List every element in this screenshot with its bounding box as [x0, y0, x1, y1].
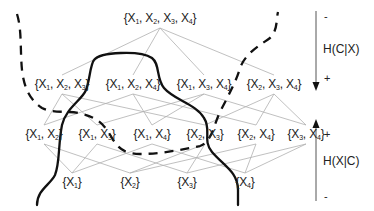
lattice-edge [44, 94, 133, 125]
arrow-down-icon [313, 82, 320, 91]
lattice-node-1: {X1} [62, 175, 81, 193]
lattice-edge [160, 28, 274, 75]
lattice-edge [62, 28, 160, 75]
lattice-node-24: {X2, X4} [238, 127, 275, 145]
lattice-node-134: {X1, X3, X4} [177, 77, 232, 95]
lattice-edge [133, 28, 160, 75]
lattice-node-123: {X1, X2, X3} [35, 77, 90, 95]
lattice-edge [256, 94, 274, 125]
lattice-edges [44, 28, 306, 173]
lattice-node-4: {X4} [235, 175, 254, 193]
h-x-given-c-label: H(X|C) [323, 154, 359, 168]
lattice-node-1234: {X1, X2, X3, X4} [124, 11, 196, 29]
lattice-edge [187, 144, 205, 173]
h-x-given-c-plus-sign: + [324, 128, 330, 140]
lattice-edge [152, 144, 245, 173]
lattice-node-234: {X2, X3, X4} [247, 77, 302, 95]
h-x-given-c-minus-sign: - [324, 190, 328, 202]
lattice-node-34: {X3, X4} [288, 127, 325, 145]
lattice-edge [204, 94, 306, 125]
lattice-node-23: {X2, X3} [187, 127, 224, 145]
lattice-node-124: {X1, X2, X4} [106, 77, 161, 95]
lattice-node-14: {X1, X4} [134, 127, 171, 145]
lattice-edge [160, 28, 204, 75]
h-c-given-x-label: H(C|X) [323, 42, 359, 56]
lattice-edge [44, 94, 62, 125]
h-c-given-x-plus-sign: + [324, 72, 330, 84]
lattice-edge [62, 94, 205, 125]
lattice-node-3: {X3} [177, 175, 196, 193]
lattice-node-12: {X1, X2} [26, 127, 63, 145]
lattice-node-13: {X1, X3} [79, 127, 116, 145]
lattice-node-2: {X2} [120, 175, 139, 193]
h-c-given-x-minus-sign: - [324, 10, 328, 22]
